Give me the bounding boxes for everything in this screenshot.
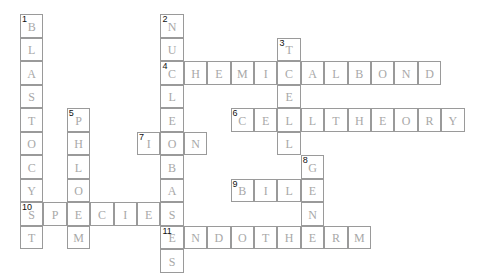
cell-letter: B xyxy=(238,184,246,199)
crossword-cell[interactable]: L xyxy=(67,155,90,179)
crossword-cell[interactable]: O xyxy=(20,132,43,156)
crossword-cell[interactable]: I xyxy=(254,61,277,85)
cell-letter: N xyxy=(168,20,177,35)
crossword-cell[interactable]: E11 xyxy=(160,226,183,250)
crossword-cell[interactable]: S xyxy=(20,85,43,109)
crossword-cell[interactable]: G8 xyxy=(301,155,324,179)
crossword-cell[interactable]: I7 xyxy=(137,132,160,156)
crossword-cell[interactable]: R xyxy=(418,108,441,132)
crossword-cell[interactable]: C6 xyxy=(231,108,254,132)
crossword-cell[interactable]: E xyxy=(160,108,183,132)
crossword-cell[interactable]: A xyxy=(301,61,324,85)
crossword-cell[interactable]: O xyxy=(160,132,183,156)
cell-letter: D xyxy=(215,231,224,246)
crossword-cell[interactable]: B xyxy=(348,61,371,85)
crossword-cell[interactable]: B xyxy=(160,155,183,179)
crossword-cell[interactable]: M xyxy=(231,61,254,85)
crossword-cell[interactable]: E xyxy=(207,61,230,85)
cell-letter: M xyxy=(73,231,84,246)
crossword-cell[interactable]: M xyxy=(67,226,90,250)
crossword-cell[interactable]: N xyxy=(301,202,324,226)
crossword-cell[interactable]: L xyxy=(324,61,347,85)
crossword-cell[interactable]: T3 xyxy=(277,38,300,62)
crossword-cell[interactable]: E xyxy=(301,226,324,250)
crossword-cell[interactable]: E xyxy=(371,108,394,132)
cell-letter: E xyxy=(309,184,316,199)
crossword-cell[interactable]: C xyxy=(277,61,300,85)
crossword-cell[interactable]: I xyxy=(254,179,277,203)
clue-number: 5 xyxy=(69,108,74,118)
cell-letter: E xyxy=(379,114,386,129)
crossword-cell[interactable]: R xyxy=(324,226,347,250)
cell-letter: H xyxy=(74,137,83,152)
cell-letter: S xyxy=(169,208,176,223)
clue-number: 8 xyxy=(303,155,308,165)
cell-letter: O xyxy=(74,184,83,199)
cell-letter: E xyxy=(262,114,269,129)
cell-letter: P xyxy=(75,114,82,129)
cell-letter: E xyxy=(75,208,82,223)
crossword-cell[interactable]: A xyxy=(20,61,43,85)
clue-number: 7 xyxy=(139,132,144,142)
crossword-cell[interactable]: T xyxy=(324,108,347,132)
crossword-cell[interactable]: T xyxy=(254,226,277,250)
crossword-cell[interactable]: S xyxy=(160,249,183,273)
cell-letter: I xyxy=(123,208,127,223)
crossword-cell[interactable]: L xyxy=(277,132,300,156)
crossword-cell[interactable]: O xyxy=(394,108,417,132)
cell-letter: A xyxy=(27,67,36,82)
crossword-cell[interactable]: I xyxy=(114,202,137,226)
crossword-cell[interactable]: A xyxy=(160,179,183,203)
crossword-cell[interactable]: O xyxy=(371,61,394,85)
crossword-cell[interactable]: H xyxy=(184,61,207,85)
crossword-cell[interactable]: O xyxy=(231,226,254,250)
crossword-cell[interactable]: P xyxy=(43,202,66,226)
crossword-cell[interactable]: T xyxy=(20,108,43,132)
crossword-cell[interactable]: C xyxy=(90,202,113,226)
crossword-cell[interactable]: E xyxy=(67,202,90,226)
crossword-cell[interactable]: N xyxy=(184,132,207,156)
cell-letter: S xyxy=(28,90,35,105)
crossword-cell[interactable]: C xyxy=(20,155,43,179)
cell-letter: L xyxy=(285,184,292,199)
crossword-cell[interactable]: D xyxy=(207,226,230,250)
crossword-cell[interactable]: L xyxy=(277,108,300,132)
crossword-cell[interactable]: S10 xyxy=(20,202,43,226)
crossword-cell[interactable]: C4 xyxy=(160,61,183,85)
crossword-cell[interactable]: S xyxy=(160,202,183,226)
crossword-cell[interactable]: P5 xyxy=(67,108,90,132)
crossword-cell[interactable]: D xyxy=(418,61,441,85)
crossword-cell[interactable]: H xyxy=(348,108,371,132)
crossword-cell[interactable]: Y xyxy=(20,179,43,203)
cell-letter: N xyxy=(191,231,200,246)
crossword-cell[interactable]: L xyxy=(160,85,183,109)
cell-letter: Y xyxy=(449,114,458,129)
crossword-cell[interactable]: H xyxy=(277,226,300,250)
cell-letter: I xyxy=(147,137,151,152)
crossword-cell[interactable]: B1 xyxy=(20,14,43,38)
clue-number: 11 xyxy=(162,226,171,236)
crossword-cell[interactable]: L xyxy=(301,108,324,132)
crossword-cell[interactable]: T xyxy=(20,226,43,250)
cell-letter: C xyxy=(98,208,106,223)
crossword-cell[interactable]: H xyxy=(67,132,90,156)
cell-letter: L xyxy=(285,137,292,152)
crossword-cell[interactable]: L xyxy=(277,179,300,203)
crossword-cell[interactable]: E xyxy=(254,108,277,132)
cell-letter: L xyxy=(75,161,82,176)
cell-letter: O xyxy=(402,114,411,129)
crossword-cell[interactable]: M xyxy=(348,226,371,250)
cell-letter: H xyxy=(355,114,364,129)
crossword-cell[interactable]: U xyxy=(160,38,183,62)
crossword-cell[interactable]: E xyxy=(137,202,160,226)
crossword-cell[interactable]: N2 xyxy=(160,14,183,38)
cell-letter: P xyxy=(52,208,59,223)
crossword-cell[interactable]: N xyxy=(394,61,417,85)
crossword-cell[interactable]: E xyxy=(301,179,324,203)
crossword-cell[interactable]: E xyxy=(277,85,300,109)
crossword-cell[interactable]: B9 xyxy=(231,179,254,203)
crossword-cell[interactable]: Y xyxy=(441,108,464,132)
crossword-cell[interactable]: N xyxy=(184,226,207,250)
crossword-cell[interactable]: O xyxy=(67,179,90,203)
crossword-cell[interactable]: L xyxy=(20,38,43,62)
